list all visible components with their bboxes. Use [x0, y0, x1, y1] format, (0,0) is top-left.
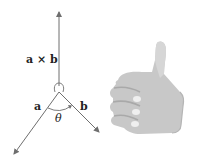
cross-product-diagram: a × b a b θ — [0, 0, 208, 162]
angle-arc-arrow-icon — [68, 105, 72, 109]
vector-b — [59, 92, 99, 132]
angle-arc — [48, 106, 71, 111]
vector-b-label: b — [80, 100, 88, 113]
vector-diagram — [0, 0, 208, 162]
vector-a-label: a — [34, 100, 41, 113]
angle-theta-label: θ — [55, 112, 62, 125]
cross-product-label: a × b — [26, 53, 58, 66]
thumbs-up-hand-icon — [110, 41, 184, 134]
